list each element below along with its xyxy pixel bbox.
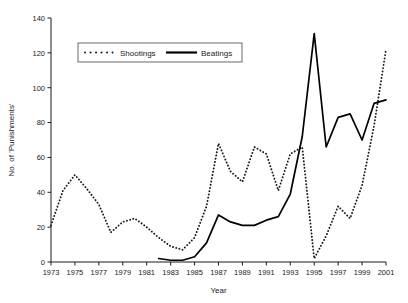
y-axis-tick-label: 20 <box>37 223 45 232</box>
x-axis-tick-label: 1987 <box>210 268 227 277</box>
x-axis-tick-label: 1991 <box>258 268 275 277</box>
x-axis-tick-label: 1975 <box>67 268 84 277</box>
y-axis-title: No. of 'Punishments' <box>7 103 16 176</box>
x-axis-tick-label: 1985 <box>186 268 203 277</box>
x-axis-tick-label: 1997 <box>330 268 347 277</box>
series-line-beatings <box>159 34 386 261</box>
y-axis-tick-label: 140 <box>32 14 45 23</box>
x-axis-title: Year <box>210 286 227 295</box>
y-axis-tick-label: 40 <box>37 188 45 197</box>
x-axis-tick-label: 1979 <box>114 268 131 277</box>
x-axis-tick-label: 1993 <box>282 268 299 277</box>
x-axis-tick-label: 1983 <box>162 268 179 277</box>
y-axis-tick-label: 120 <box>32 49 45 58</box>
x-axis-tick-label: 1989 <box>234 268 251 277</box>
legend-label-shootings: Shootings <box>120 49 156 58</box>
x-axis-tick-label: 1973 <box>43 268 60 277</box>
y-axis-tick-label: 60 <box>37 153 45 162</box>
chart-container: 0204060801001201401973197519771979198119… <box>0 0 408 303</box>
x-axis-tick-label: 2001 <box>378 268 395 277</box>
x-axis-tick-label: 1981 <box>138 268 155 277</box>
legend-label-beatings: Beatings <box>201 49 232 58</box>
x-axis-tick-label: 1999 <box>354 268 371 277</box>
y-axis-tick-label: 80 <box>37 118 45 127</box>
y-axis-tick-label: 0 <box>41 258 45 267</box>
y-axis-tick-label: 100 <box>32 84 45 93</box>
series-line-shootings <box>51 49 386 258</box>
x-axis-tick-label: 1995 <box>306 268 323 277</box>
x-axis-tick-label: 1977 <box>91 268 108 277</box>
line-chart: 0204060801001201401973197519771979198119… <box>0 0 408 303</box>
